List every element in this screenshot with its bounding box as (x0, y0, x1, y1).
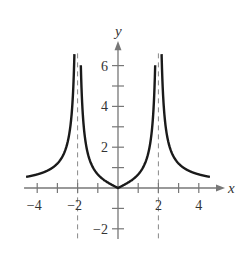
curve-right-branch (162, 54, 210, 177)
x-axis-arrow-icon (216, 185, 225, 192)
x-tick-label: −2 (67, 198, 82, 213)
x-tick-label: 4 (195, 198, 202, 213)
x-tick-label: 2 (155, 198, 162, 213)
y-tick-label: −2 (93, 222, 108, 237)
y-tick-label: 6 (101, 59, 108, 74)
y-tick-label: 2 (101, 140, 108, 155)
x-axis-label: x (227, 180, 235, 196)
y-tick-label: 4 (101, 99, 108, 114)
function-graph: −4−224−2246 x y (0, 0, 250, 254)
y-axis-arrow-icon (115, 41, 122, 50)
x-tick-label: −4 (27, 198, 42, 213)
curve-left-branch (26, 54, 74, 177)
y-axis-label: y (113, 23, 122, 39)
